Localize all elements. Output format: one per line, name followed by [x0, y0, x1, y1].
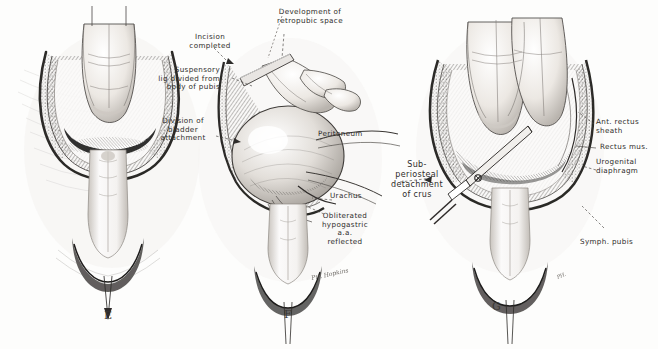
label-development-retropubic-space: Development of retropubic space [268, 8, 352, 25]
panel-f-artwork [198, 16, 400, 344]
label-obliterated-hypogastric: Obliterated hypogastric a.a. reflected [314, 212, 376, 246]
illustration-plate: Incision completed Development of retrop… [0, 0, 658, 349]
label-sub-periosteal-detachment-of-crus: Sub- periosteal detachment of crus [386, 160, 448, 200]
label-rectus-mus: Rectus mus. [600, 143, 658, 152]
label-incision-completed: Incision completed [180, 33, 240, 50]
label-suspensory-ligament: Suspensory lig divided from body of pubi… [148, 66, 220, 92]
panel-e-artwork [18, 6, 200, 320]
label-division-bladder-attachment: Division of bladder attachment [150, 117, 216, 143]
panel-letter-g: G [492, 300, 501, 313]
panel-letter-e: E [104, 309, 113, 322]
label-urachus: Urachus [330, 192, 372, 201]
label-peritoneum: Peritoneum [318, 130, 366, 139]
panel-letter-f: F [284, 308, 292, 321]
label-urogenital-diaphragm: Urogenital diaphragm [596, 158, 654, 175]
label-symph-pubis: Symph. pubis [580, 238, 650, 247]
label-ant-rectus-sheath: Ant. rectus sheath [596, 118, 658, 135]
plate-artwork [0, 0, 658, 349]
